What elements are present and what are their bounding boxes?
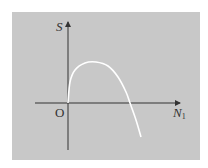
origin-label: O — [55, 105, 64, 120]
x-axis-label: N1 — [172, 105, 186, 121]
y-axis-label: S — [56, 19, 63, 34]
diagram: S O N1 — [0, 0, 208, 168]
s-curve — [68, 62, 141, 137]
